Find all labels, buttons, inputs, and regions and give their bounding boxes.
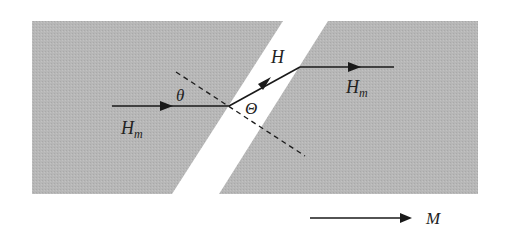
m-label: M <box>425 209 441 228</box>
theta-label: θ <box>176 86 184 105</box>
field-refraction-diagram: θ Θ H Hm Hm M <box>0 0 520 249</box>
h-gap-label: H <box>270 47 285 67</box>
m-arrow-icon <box>400 213 412 223</box>
big-theta-label: Θ <box>245 99 257 118</box>
